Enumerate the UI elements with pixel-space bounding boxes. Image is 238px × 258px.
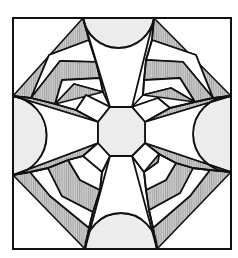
quilt-pattern	[0, 0, 238, 258]
center-octagon	[98, 107, 145, 156]
